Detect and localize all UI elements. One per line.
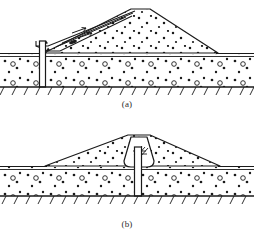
panel-a xyxy=(0,5,254,95)
panel-a-caption: (a) xyxy=(0,99,254,109)
bedrock-line-a xyxy=(0,87,254,95)
dam-cross-section-figure xyxy=(0,0,254,238)
bedrock-hatch-a xyxy=(0,87,254,95)
cutoff-wall-a[interactable] xyxy=(40,41,46,87)
figure-container: (a) (b) xyxy=(0,0,254,238)
pervious-foundation-a xyxy=(0,54,254,87)
cutoff-wall-b[interactable] xyxy=(135,147,142,196)
panel-b-caption: (b) xyxy=(0,219,254,229)
bedrock-line-b xyxy=(0,196,254,204)
panel-b xyxy=(0,132,254,204)
bedrock-hatch-b xyxy=(2,196,246,204)
pervious-foundation-b xyxy=(0,167,254,196)
